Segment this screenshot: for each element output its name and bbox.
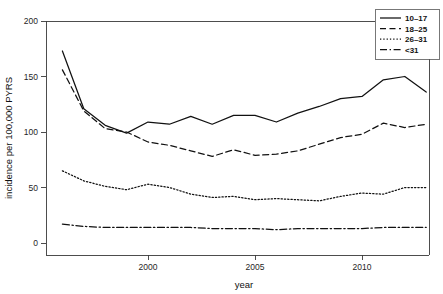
legend-label-26-31: 26–31	[405, 35, 428, 44]
legend-label-10-17: 10–17	[405, 14, 428, 23]
y-tick-label: 0	[33, 238, 38, 248]
chart-figure: 050100150200 200020052010 year incidence…	[0, 0, 443, 294]
x-axis-title: year	[235, 279, 253, 290]
y-tick-label: 100	[24, 127, 38, 137]
y-tick-label: 50	[29, 183, 39, 193]
chart-legend: 10–1718–2526–31<31	[375, 9, 439, 59]
x-tick-label: 2010	[353, 262, 372, 272]
y-axis-title: incidence per 100,000 PYRS	[3, 77, 14, 199]
legend-label-<31: <31	[405, 46, 419, 55]
legend-label-18-25: 18–25	[405, 25, 428, 34]
y-tick-label: 150	[24, 72, 38, 82]
y-tick-label: 200	[24, 16, 38, 26]
x-tick-label: 2000	[139, 262, 158, 272]
line-chart: 050100150200 200020052010 year incidence…	[0, 0, 443, 294]
x-tick-label: 2005	[246, 262, 265, 272]
